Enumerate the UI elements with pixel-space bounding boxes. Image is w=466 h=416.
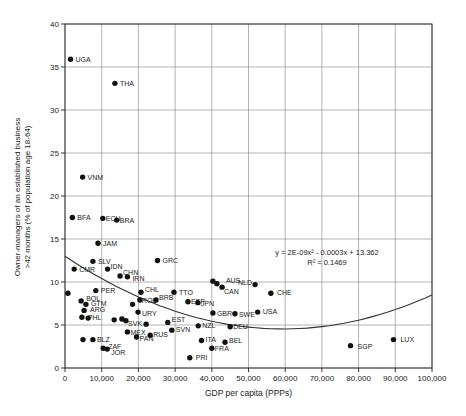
- data-point: [83, 302, 88, 307]
- data-point: [105, 266, 110, 271]
- y-axis-title: Owner-managers of an established busines…: [13, 47, 33, 347]
- data-point-label: ITA: [206, 336, 217, 343]
- data-point: [135, 309, 140, 314]
- data-point-label: ARG: [90, 306, 105, 313]
- data-point-label: PER: [101, 287, 115, 294]
- data-point: [196, 323, 201, 328]
- data-point-label: IDN: [111, 263, 123, 270]
- data-point: [255, 309, 260, 314]
- x-tick-label: 80,000: [346, 374, 371, 383]
- data-point: [232, 311, 237, 316]
- data-point: [71, 266, 76, 271]
- data-point: [117, 273, 122, 278]
- data-point-label: VNM: [88, 174, 104, 181]
- data-point-label: BRA: [120, 217, 135, 224]
- x-tick-label: 0: [63, 374, 68, 383]
- data-point: [90, 337, 95, 342]
- trendline-equation: y = 2E-09x² - 0.0003x + 13.362 R² = 0.14…: [253, 248, 401, 267]
- data-point-label: EST: [172, 316, 186, 323]
- data-point: [93, 288, 98, 293]
- data-point: [78, 298, 83, 303]
- data-point: [195, 300, 200, 305]
- data-point-label: CMR: [79, 266, 95, 273]
- data-point-label: JAM: [103, 240, 117, 247]
- data-point-label: SWE: [239, 311, 255, 318]
- data-point-label: CHL: [145, 286, 159, 293]
- data-point: [348, 343, 353, 348]
- x-tick-label: 60,000: [273, 374, 298, 383]
- data-point-label: BLZ: [97, 336, 111, 343]
- data-point-label: RUS: [153, 331, 168, 338]
- data-point-label: JOR: [111, 349, 125, 356]
- data-point-label: SGP: [358, 343, 373, 350]
- data-point-label: BFA: [77, 214, 91, 221]
- x-tick-label: 20,000: [126, 374, 151, 383]
- data-point: [222, 340, 227, 345]
- scatter-plot-canvas: 010,00020,00030,00040,00050,00060,00070,…: [0, 0, 466, 416]
- data-point: [199, 338, 204, 343]
- y-tick-label: 0: [55, 364, 60, 373]
- data-point-label: CHE: [277, 289, 292, 296]
- x-tick-label: 70,000: [310, 374, 335, 383]
- data-point: [227, 324, 232, 329]
- y-tick-label: 20: [50, 192, 59, 201]
- data-point-label: BEL: [229, 337, 242, 344]
- data-point: [134, 334, 139, 339]
- data-point-label: LUX: [400, 336, 414, 343]
- data-point: [80, 174, 85, 179]
- y-axis-title-line1: Owner-managers of an established busines…: [13, 47, 23, 347]
- data-point-label: GRC: [162, 257, 178, 264]
- data-point: [111, 317, 116, 322]
- data-point: [391, 337, 396, 342]
- data-point: [268, 290, 273, 295]
- x-tick-label: 100,000: [418, 374, 447, 383]
- data-point: [100, 216, 105, 221]
- y-axis-title-line2: >42 months (% of population age 18-64): [23, 47, 33, 347]
- data-point-label: DEU: [233, 323, 248, 330]
- data-point-label: JPN: [201, 300, 214, 307]
- equation-line: y = 2E-09x² - 0.0003x + 13.362: [253, 248, 401, 258]
- data-point: [105, 346, 110, 351]
- data-point: [68, 57, 73, 62]
- data-point: [125, 274, 130, 279]
- data-point-label: SVK: [128, 320, 142, 327]
- data-point: [81, 308, 86, 313]
- data-point: [252, 282, 257, 287]
- data-point: [114, 217, 119, 222]
- data-point: [85, 315, 90, 320]
- data-point: [165, 320, 170, 325]
- x-tick-label: 90,000: [383, 374, 408, 383]
- r-squared-line: R² = 0.1469: [253, 258, 401, 268]
- data-point: [70, 215, 75, 220]
- data-point: [80, 337, 85, 342]
- data-point-label: URY: [142, 310, 157, 317]
- x-tick-label: 30,000: [163, 374, 188, 383]
- x-tick-label: 10,000: [89, 374, 114, 383]
- data-point: [185, 299, 190, 304]
- data-point-label: NLD: [238, 279, 252, 286]
- data-point-label: SLV: [98, 258, 111, 265]
- scatter-chart-figure: 010,00020,00030,00040,00050,00060,00070,…: [0, 0, 466, 416]
- y-tick-label: 25: [50, 149, 59, 158]
- data-point: [187, 355, 192, 360]
- data-point-label: IRN: [132, 275, 144, 282]
- data-point-label: NZL: [202, 322, 215, 329]
- data-point: [210, 310, 215, 315]
- data-point: [143, 321, 148, 326]
- data-point: [214, 281, 219, 286]
- data-point: [209, 346, 214, 351]
- y-tick-label: 10: [50, 278, 59, 287]
- y-tick-label: 35: [50, 63, 59, 72]
- y-tick-label: 40: [50, 20, 59, 29]
- data-point-label: PRI: [196, 354, 208, 361]
- data-point-label: USA: [263, 308, 278, 315]
- data-point: [169, 327, 174, 332]
- data-point: [125, 329, 130, 334]
- data-point: [153, 297, 158, 302]
- data-point-label: CAN: [224, 288, 239, 295]
- data-point: [155, 258, 160, 263]
- data-point-label: UGA: [76, 56, 92, 63]
- data-point: [65, 290, 70, 295]
- y-tick-label: 5: [55, 321, 60, 330]
- data-point-label: TTO: [179, 289, 193, 296]
